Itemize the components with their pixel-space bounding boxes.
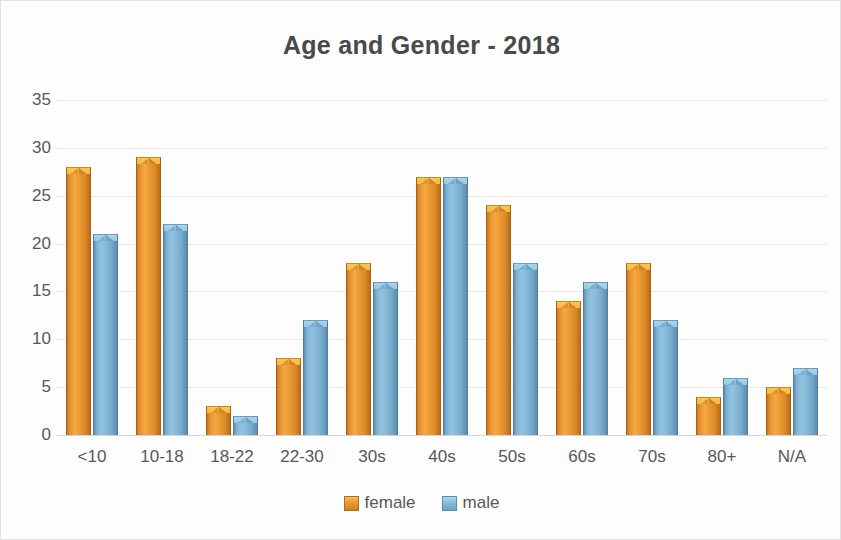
x-axis-tick-label: <10	[78, 447, 107, 467]
bar-body	[206, 413, 231, 435]
bar-body	[626, 270, 651, 435]
bar-body	[136, 164, 161, 435]
bar-body	[346, 270, 371, 435]
bar-group	[626, 100, 678, 435]
x-axis-tick-label: 30s	[358, 447, 385, 467]
bar-group	[416, 100, 468, 435]
y-axis-tick-label: 0	[7, 425, 51, 445]
y-axis-tick-label: 5	[7, 377, 51, 397]
bar-male-40s[interactable]	[443, 177, 468, 435]
bar-body	[163, 231, 188, 435]
bar-female-N/A[interactable]	[766, 387, 791, 435]
legend-item-male[interactable]: male	[442, 493, 500, 513]
bar-female-10-18[interactable]	[136, 157, 161, 435]
bar-body	[303, 327, 328, 435]
y-axis-tick-label: 30	[7, 138, 51, 158]
bar-group	[696, 100, 748, 435]
bar-group	[766, 100, 818, 435]
bar-body	[583, 289, 608, 435]
bar-body	[93, 241, 118, 435]
legend-swatch-male	[442, 496, 457, 511]
bar-body	[513, 270, 538, 435]
bar-body	[653, 327, 678, 435]
bar-body	[556, 308, 581, 435]
bar-female-<10[interactable]	[66, 167, 91, 435]
bar-body	[276, 365, 301, 435]
gridline	[57, 435, 827, 436]
y-axis-tick-label: 20	[7, 234, 51, 254]
bar-body	[373, 289, 398, 435]
x-axis-tick-label: 70s	[638, 447, 665, 467]
y-axis-tick-label: 15	[7, 281, 51, 301]
x-axis-tick-label: 60s	[568, 447, 595, 467]
bar-male-30s[interactable]	[373, 282, 398, 435]
bar-body	[723, 385, 748, 435]
x-axis-tick-label: 40s	[428, 447, 455, 467]
bar-body	[66, 174, 91, 435]
bar-group	[66, 100, 118, 435]
x-axis-tick-label: 50s	[498, 447, 525, 467]
x-axis-tick-label: 10-18	[140, 447, 183, 467]
bar-female-70s[interactable]	[626, 263, 651, 435]
bar-group	[556, 100, 608, 435]
bar-body	[233, 423, 258, 435]
bar-group	[346, 100, 398, 435]
bar-body	[766, 394, 791, 435]
chart-legend: femalemale	[1, 493, 841, 513]
bar-body	[416, 184, 441, 435]
chart-title: Age and Gender - 2018	[1, 31, 841, 60]
bar-female-50s[interactable]	[486, 205, 511, 435]
bar-male-N/A[interactable]	[793, 368, 818, 435]
legend-label: female	[365, 493, 416, 513]
bar-male-22-30[interactable]	[303, 320, 328, 435]
y-axis-tick-label: 25	[7, 186, 51, 206]
bar-male-10-18[interactable]	[163, 224, 188, 435]
bar-group	[486, 100, 538, 435]
bar-group	[276, 100, 328, 435]
bar-male-<10[interactable]	[93, 234, 118, 435]
bar-male-80+[interactable]	[723, 378, 748, 435]
bar-female-18-22[interactable]	[206, 406, 231, 435]
bar-group	[206, 100, 258, 435]
bar-female-22-30[interactable]	[276, 358, 301, 435]
bars-layer	[57, 100, 827, 435]
bar-female-30s[interactable]	[346, 263, 371, 435]
bar-group	[136, 100, 188, 435]
bar-female-80+[interactable]	[696, 397, 721, 435]
plot-area	[57, 100, 827, 435]
x-axis-tick-label: 18-22	[210, 447, 253, 467]
bar-female-40s[interactable]	[416, 177, 441, 435]
bar-male-60s[interactable]	[583, 282, 608, 435]
bar-female-60s[interactable]	[556, 301, 581, 435]
y-axis-tick-label: 10	[7, 329, 51, 349]
legend-swatch-female	[344, 496, 359, 511]
bar-male-18-22[interactable]	[233, 416, 258, 435]
y-axis-tick-label: 35	[7, 90, 51, 110]
x-axis-tick-label: 80+	[708, 447, 737, 467]
x-axis-tick-label: 22-30	[280, 447, 323, 467]
x-axis-tick-label: N/A	[778, 447, 806, 467]
bar-body	[443, 184, 468, 435]
legend-item-female[interactable]: female	[344, 493, 416, 513]
chart-container: Age and Gender - 2018 <1010-1818-2222-30…	[0, 0, 841, 540]
bar-body	[793, 375, 818, 435]
bar-male-50s[interactable]	[513, 263, 538, 435]
bar-body	[696, 404, 721, 435]
bar-body	[486, 212, 511, 435]
bar-male-70s[interactable]	[653, 320, 678, 435]
x-axis: <1010-1818-2222-3030s40s50s60s70s80+N/A	[57, 447, 827, 475]
legend-label: male	[463, 493, 500, 513]
